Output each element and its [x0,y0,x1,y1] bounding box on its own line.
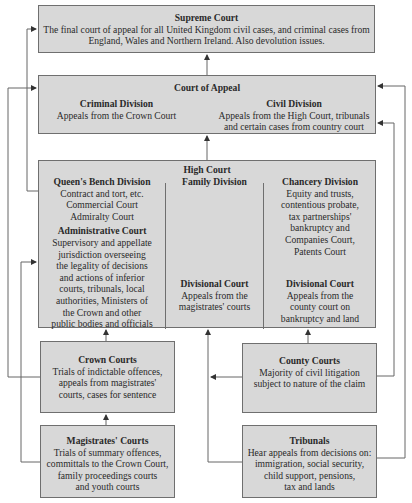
county-courts-title: County Courts [243,355,376,367]
civil-division: Civil Division Appeals from the High Cou… [214,98,374,133]
tribunals-box: Tribunals Hear appeals from decisions on… [242,425,377,498]
supreme-court-box: Supreme Court The final court of appeal … [38,5,375,53]
civil-division-title: Civil Division [214,98,374,110]
family-division: Family Division [166,176,263,188]
family-divisional-court-title: Divisional Court [166,278,263,290]
criminal-division-title: Criminal Division [39,98,194,110]
chancery-divisional-court-title: Divisional Court [264,278,376,290]
court-of-appeal-box: Court of Appeal Criminal Division Appeal… [38,75,376,134]
crown-courts-text: Trials of indictable offences, appeals f… [41,366,174,401]
chancery-divisional-court: Divisional Court Appeals from the county… [264,278,376,324]
family-division-title: Family Division [166,176,263,188]
high-court-box: High Court Queen's Bench Division Contra… [38,160,376,328]
court-of-appeal-title: Court of Appeal [39,82,375,94]
magistrates-courts-title: Magistrates' Courts [41,435,174,447]
supreme-court-text: The final court of appeal for all United… [39,24,374,47]
queens-bench-text: Contract and tort, etc. Commercial Court… [39,188,165,223]
criminal-division: Criminal Division Appeals from the Crown… [39,98,194,121]
administrative-court-title: Administrative Court [39,225,165,237]
high-court-title: High Court [39,164,375,176]
magistrates-courts-text: Trials of summary offences, committals t… [41,447,174,493]
tribunals-text: Hear appeals from decisions on: immigrat… [243,447,376,493]
queens-bench-title: Queen's Bench Division [39,176,165,188]
chancery-divisional-court-text: Appeals from the county court on bankrup… [264,290,376,325]
family-divisional-court: Divisional Court Appeals from the magist… [166,278,263,313]
crown-courts-box: Crown Courts Trials of indictable offenc… [40,341,175,413]
civil-division-text: Appeals from the High Court, tribunals a… [214,110,374,133]
magistrates-courts-box: Magistrates' Courts Trials of summary of… [40,425,175,498]
county-courts-box: County Courts Majority of civil litigati… [242,343,377,413]
chancery-division-text: Equity and trusts, contentious probate, … [264,188,376,258]
administrative-court-text: Supervisory and appellate jurisdiction o… [39,237,165,330]
chancery-division: Chancery Division Equity and trusts, con… [264,176,376,257]
chancery-division-title: Chancery Division [264,176,376,188]
county-courts-text: Majority of civil litigation subject to … [243,367,376,390]
tribunals-title: Tribunals [243,435,376,447]
criminal-division-text: Appeals from the Crown Court [39,110,194,122]
queens-bench-division: Queen's Bench Division Contract and tort… [39,176,165,330]
supreme-court-title: Supreme Court [39,12,374,24]
crown-courts-title: Crown Courts [41,354,174,366]
family-divisional-court-text: Appeals from the magistrates' courts [166,290,263,313]
